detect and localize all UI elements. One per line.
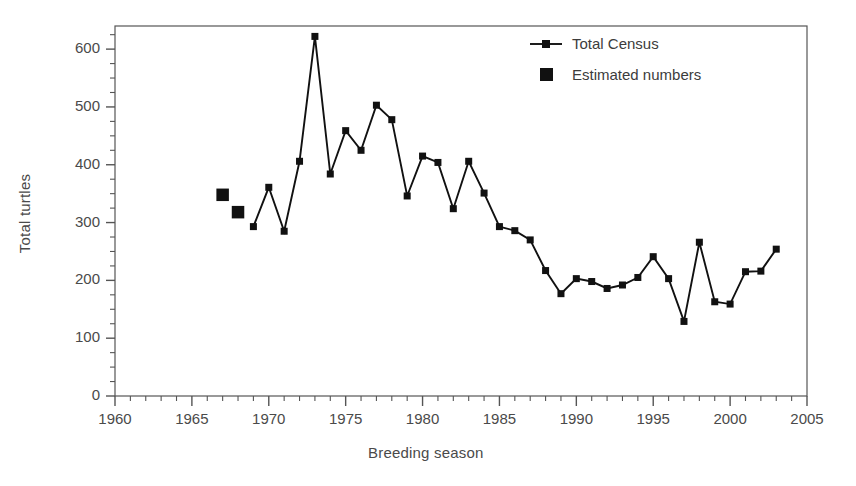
x-tick-label-1965: 1965 — [162, 410, 222, 427]
legend-icons — [530, 40, 562, 81]
x-tick-label-1995: 1995 — [623, 410, 683, 427]
x-tick-label-1975: 1975 — [316, 410, 376, 427]
series-estimated-numbers-markers — [216, 189, 244, 219]
legend-label-estimated-numbers: Estimated numbers — [572, 66, 701, 83]
y-tick-label-300: 300 — [54, 213, 100, 230]
y-tick-label-400: 400 — [54, 155, 100, 172]
x-axis-ticks — [115, 396, 807, 406]
x-tick-label-2000: 2000 — [700, 410, 760, 427]
y-tick-label-200: 200 — [54, 270, 100, 287]
y-tick-label-600: 600 — [54, 39, 100, 56]
chart-figure: Total turtles Breeding season 0100200300… — [0, 0, 856, 486]
plot-frame — [115, 26, 807, 396]
y-tick-label-500: 500 — [54, 97, 100, 114]
x-tick-label-1985: 1985 — [469, 410, 529, 427]
x-tick-label-1980: 1980 — [393, 410, 453, 427]
x-tick-label-2005: 2005 — [777, 410, 837, 427]
x-tick-label-1990: 1990 — [546, 410, 606, 427]
y-tick-label-0: 0 — [54, 386, 100, 403]
x-tick-label-1960: 1960 — [85, 410, 145, 427]
x-tick-label-1970: 1970 — [239, 410, 299, 427]
y-tick-label-100: 100 — [54, 328, 100, 345]
y-axis-ticks — [106, 35, 115, 396]
legend-label-total-census: Total Census — [572, 35, 659, 52]
